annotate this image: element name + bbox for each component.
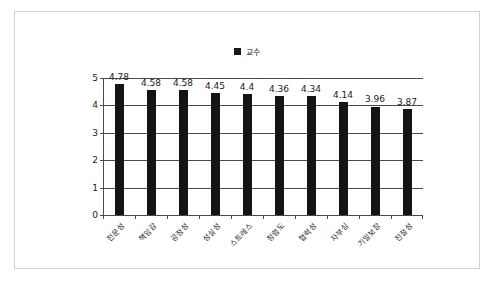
bar: [211, 93, 220, 215]
x-axis-category-label: 책임감: [136, 220, 159, 243]
legend-square-marker-icon: [234, 48, 241, 55]
x-axis-category-label: 공정성: [168, 220, 191, 243]
bar-value-label: 3.87: [397, 97, 417, 107]
bar-value-label: 4.78: [109, 72, 129, 82]
x-axis-tick-slot: [167, 215, 199, 219]
bar-value-label: 4.36: [269, 84, 289, 94]
x-axis-tick-mark: [263, 215, 264, 219]
x-axis-category-label: 친절성: [392, 220, 415, 243]
plot-area: 012345 4.784.584.584.454.44.364.344.143.…: [103, 78, 423, 215]
bar-series: 4.784.584.584.454.44.364.344.143.963.87: [103, 78, 423, 215]
x-axis-label-slot: 공정성: [167, 220, 199, 280]
y-axis-tick-label: 1: [92, 183, 98, 193]
bar: [115, 84, 124, 215]
x-axis-tick-slot: [263, 215, 295, 219]
x-axis-tick-mark: [359, 215, 360, 219]
y-axis-tick-label: 3: [92, 128, 98, 138]
x-axis-tick-mark: [231, 215, 232, 219]
x-axis-tick-slot: [295, 215, 327, 219]
x-axis-label-slot: 친절성: [391, 220, 423, 280]
x-axis-tick-slot: [103, 215, 135, 219]
bar-slot: 4.4: [231, 78, 263, 215]
x-axis-category-label: 스트레스: [227, 220, 255, 248]
x-axis-tick-slot: [231, 215, 263, 219]
x-axis-tick-mark: [295, 215, 296, 219]
bar: [307, 96, 316, 215]
x-axis-category-label: 청렴도: [264, 220, 287, 243]
x-axis-label-slot: 책임감: [135, 220, 167, 280]
x-axis-label-slot: 청렴도: [263, 220, 295, 280]
x-axis-tick-slot: [135, 215, 167, 219]
x-axis-tick-slot: [359, 215, 391, 219]
chart-frame: 교수 012345 4.784.584.584.454.44.364.344.1…: [14, 11, 480, 269]
x-axis-label-slot: 협력성: [295, 220, 327, 280]
x-axis-tick-slot: [199, 215, 231, 219]
chart-legend: 교수: [15, 46, 479, 57]
bar-slot: 4.78: [103, 78, 135, 215]
bar-slot: 3.87: [391, 78, 423, 215]
x-axis-labels: 전문성책임감공정성성실성스트레스청렴도협력성자부심기밀보장친절성: [103, 220, 423, 280]
bar-slot: 4.36: [263, 78, 295, 215]
x-axis-tick-mark: [135, 215, 136, 219]
y-axis-tick-label: 4: [92, 100, 98, 110]
bar-value-label: 4.58: [173, 78, 193, 88]
bar: [275, 96, 284, 215]
bar-value-label: 4.14: [333, 90, 353, 100]
bar: [371, 107, 380, 216]
legend-label: 교수: [246, 46, 261, 57]
x-axis-category-label: 전문성: [104, 220, 127, 243]
x-axis-category-label: 자부심: [328, 220, 351, 243]
bar-value-label: 4.34: [301, 84, 321, 94]
x-axis-ticks: [103, 215, 423, 219]
bar-slot: 4.58: [135, 78, 167, 215]
x-axis-tick-mark: [391, 215, 392, 219]
bar-slot: 4.45: [199, 78, 231, 215]
x-axis-tick-mark: [167, 215, 168, 219]
bar-slot: 3.96: [359, 78, 391, 215]
x-axis-tick-slot: [391, 215, 423, 219]
x-axis-category-label: 협력성: [296, 220, 319, 243]
x-axis-label-slot: 전문성: [103, 220, 135, 280]
bar-value-label: 4.45: [205, 81, 225, 91]
bar-slot: 4.58: [167, 78, 199, 215]
y-axis-tick-label: 0: [92, 210, 98, 220]
x-axis-label-slot: 성실성: [199, 220, 231, 280]
bar-value-label: 4.58: [141, 78, 161, 88]
x-axis-label-slot: 자부심: [327, 220, 359, 280]
bar: [243, 94, 252, 215]
bar: [147, 90, 156, 215]
x-axis-label-slot: 스트레스: [231, 220, 263, 280]
bar-slot: 4.34: [295, 78, 327, 215]
x-axis-category-label: 기밀보장: [355, 220, 383, 248]
x-axis-category-label: 성실성: [200, 220, 223, 243]
x-axis-tick-mark: [422, 215, 423, 219]
bar-value-label: 4.4: [240, 82, 254, 92]
x-axis-tick-mark: [327, 215, 328, 219]
bar: [179, 90, 188, 215]
bar: [339, 102, 348, 215]
y-axis-tick-label: 2: [92, 155, 98, 165]
bar-slot: 4.14: [327, 78, 359, 215]
bar: [403, 109, 412, 215]
bar-value-label: 3.96: [365, 94, 385, 104]
y-axis-tick-label: 5: [92, 73, 98, 83]
x-axis-tick-slot: [327, 215, 359, 219]
x-axis-tick-mark: [199, 215, 200, 219]
x-axis-tick-mark: [103, 215, 104, 219]
x-axis-label-slot: 기밀보장: [359, 220, 391, 280]
